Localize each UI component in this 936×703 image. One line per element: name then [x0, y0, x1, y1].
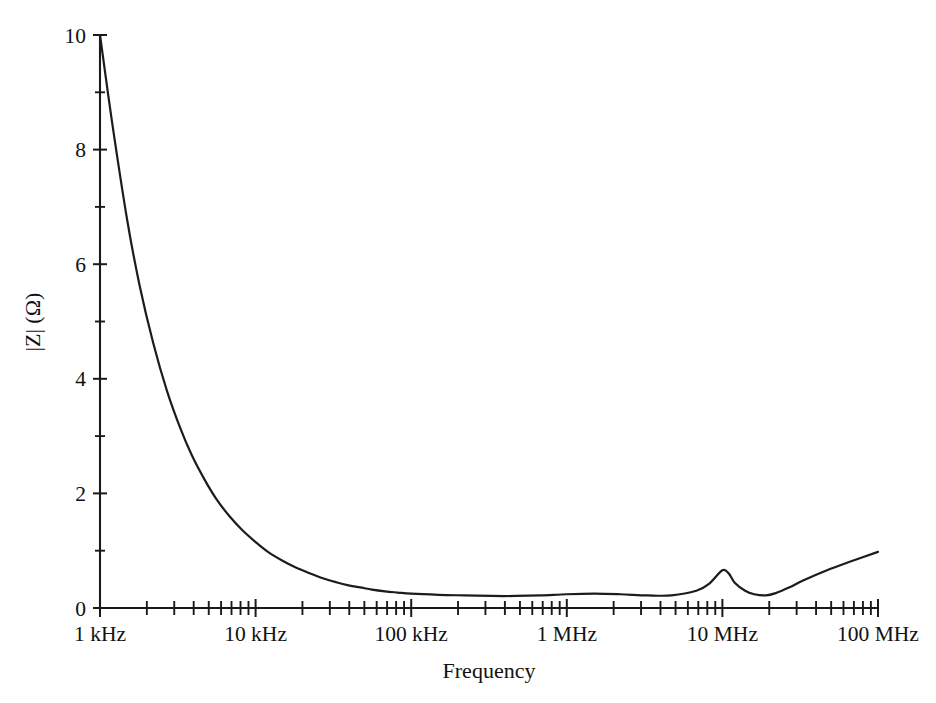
- x-axis-tick-labels: 1 kHz10 kHz100 kHz1 MHz10 MHz100 MHz: [74, 622, 919, 646]
- x-axis-title: Frequency: [443, 658, 536, 683]
- y-tick-label: 6: [75, 253, 86, 277]
- y-axis-tick-labels: 0246810: [65, 24, 87, 621]
- y-tick-label: 4: [75, 367, 86, 391]
- x-tick-label: 1 kHz: [74, 622, 126, 646]
- y-tick-label: 8: [75, 138, 86, 162]
- x-tick-label: 100 kHz: [374, 622, 447, 646]
- x-tick-label: 10 kHz: [224, 622, 287, 646]
- x-tick-label: 10 MHz: [687, 622, 758, 646]
- y-tick-label: 0: [75, 597, 86, 621]
- y-axis-title: |Z| (Ω): [20, 293, 45, 352]
- y-tick-label: 10: [65, 24, 87, 48]
- impedance-curve: [100, 35, 878, 596]
- x-tick-label: 100 MHz: [837, 622, 919, 646]
- y-tick-label: 2: [75, 482, 86, 506]
- x-tick-label: 1 MHz: [537, 622, 597, 646]
- impedance-frequency-figure: 0246810 1 kHz10 kHz100 kHz1 MHz10 MHz100…: [0, 0, 936, 703]
- plot-area: 0246810 1 kHz10 kHz100 kHz1 MHz10 MHz100…: [65, 24, 919, 647]
- chart-canvas: 0246810 1 kHz10 kHz100 kHz1 MHz10 MHz100…: [0, 0, 936, 703]
